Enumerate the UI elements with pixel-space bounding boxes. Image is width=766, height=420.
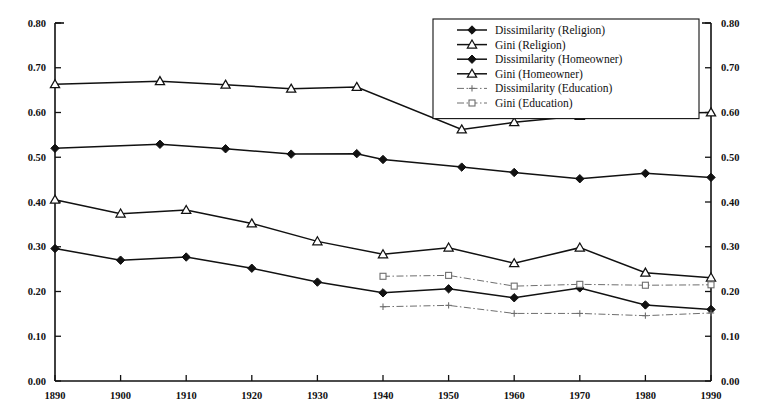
y-tick-label: 0.20 bbox=[28, 286, 46, 297]
marker-filled-diamond bbox=[510, 294, 518, 302]
legend-label: Dissimilarity (Homeowner) bbox=[495, 53, 623, 66]
marker-filled-diamond bbox=[379, 289, 387, 297]
marker-filled-diamond bbox=[248, 264, 256, 272]
x-tick-label: 1980 bbox=[635, 390, 656, 401]
marker-filled-diamond bbox=[51, 144, 59, 152]
marker-filled-diamond bbox=[287, 150, 295, 158]
marker-open-triangle bbox=[444, 243, 453, 251]
x-tick-label: 1900 bbox=[110, 390, 131, 401]
legend-label: Gini (Religion) bbox=[495, 39, 566, 52]
marker-filled-diamond bbox=[221, 145, 229, 153]
y-tick-label-right: 0.00 bbox=[721, 376, 739, 387]
marker-open-triangle bbox=[182, 205, 191, 213]
y-tick-label: 0.00 bbox=[28, 376, 46, 387]
series-0 bbox=[51, 140, 715, 183]
y-tick-label: 0.80 bbox=[28, 18, 46, 29]
y-tick-label-right: 0.60 bbox=[721, 107, 739, 118]
y-tick-label-right: 0.50 bbox=[721, 152, 739, 163]
y-tick-label: 0.60 bbox=[28, 107, 46, 118]
series-line bbox=[383, 275, 711, 286]
marker-small-plus bbox=[380, 304, 386, 310]
marker-filled-diamond bbox=[510, 168, 518, 176]
marker-small-plus bbox=[642, 312, 648, 318]
x-axis-ticks: 1890190019101920193019401950196019701980… bbox=[45, 375, 722, 401]
legend-label: Gini (Homeowner) bbox=[495, 68, 583, 81]
x-tick-label: 1940 bbox=[373, 390, 394, 401]
y-tick-label-right: 0.10 bbox=[721, 331, 739, 342]
marker-small-plus bbox=[445, 302, 451, 308]
x-tick-label: 1910 bbox=[176, 390, 197, 401]
series-line bbox=[383, 305, 711, 315]
y-tick-label-right: 0.80 bbox=[721, 18, 739, 29]
series-4 bbox=[380, 302, 714, 319]
y-tick-label-right: 0.70 bbox=[721, 62, 739, 73]
marker-filled-diamond bbox=[641, 301, 649, 309]
marker-filled-diamond bbox=[641, 169, 649, 177]
y-tick-label-right: 0.30 bbox=[721, 241, 739, 252]
marker-filled-diamond bbox=[707, 173, 715, 181]
marker-filled-diamond bbox=[379, 155, 387, 163]
marker-small-open-square bbox=[511, 283, 517, 289]
legend-label: Dissimilarity (Religion) bbox=[495, 24, 605, 37]
x-tick-label: 1890 bbox=[45, 390, 66, 401]
marker-filled-diamond bbox=[444, 285, 452, 293]
series-3 bbox=[50, 195, 715, 281]
x-tick-label: 1930 bbox=[307, 390, 328, 401]
y-tick-label: 0.40 bbox=[28, 197, 46, 208]
x-tick-label: 1990 bbox=[701, 390, 722, 401]
marker-filled-diamond bbox=[458, 163, 466, 171]
marker-small-open-square bbox=[380, 273, 386, 279]
marker-small-open-square bbox=[469, 100, 475, 106]
legend-label: Gini (Education) bbox=[495, 97, 573, 110]
marker-open-triangle bbox=[575, 243, 584, 251]
marker-small-plus bbox=[511, 310, 517, 316]
x-tick-label: 1950 bbox=[438, 390, 459, 401]
marker-filled-diamond bbox=[576, 175, 584, 183]
line-chart: 0.000.000.100.100.200.200.300.300.400.40… bbox=[0, 0, 766, 420]
x-tick-label: 1970 bbox=[569, 390, 590, 401]
marker-small-open-square bbox=[708, 282, 714, 288]
x-tick-label: 1960 bbox=[504, 390, 525, 401]
y-tick-label: 0.70 bbox=[28, 62, 46, 73]
y-tick-label: 0.30 bbox=[28, 241, 46, 252]
marker-small-open-square bbox=[446, 272, 452, 278]
y-tick-label: 0.10 bbox=[28, 331, 46, 342]
marker-filled-diamond bbox=[353, 149, 361, 157]
legend: Dissimilarity (Religion)Gini (Religion)D… bbox=[433, 19, 699, 119]
marker-filled-diamond bbox=[182, 253, 190, 261]
y-tick-label: 0.50 bbox=[28, 152, 46, 163]
chart-root: 0.000.000.100.100.200.200.300.300.400.40… bbox=[0, 0, 766, 420]
marker-small-open-square bbox=[642, 282, 648, 288]
marker-open-triangle bbox=[50, 195, 59, 203]
series-5 bbox=[380, 272, 714, 289]
marker-small-plus bbox=[577, 310, 583, 316]
marker-filled-diamond bbox=[313, 278, 321, 286]
series-line bbox=[55, 200, 711, 278]
marker-filled-diamond bbox=[51, 244, 59, 252]
legend-label: Dissimilarity (Education) bbox=[495, 82, 612, 95]
y-tick-label-right: 0.20 bbox=[721, 286, 739, 297]
y-tick-label-right: 0.40 bbox=[721, 197, 739, 208]
marker-filled-diamond bbox=[116, 256, 124, 264]
marker-small-open-square bbox=[577, 281, 583, 287]
marker-filled-diamond bbox=[156, 140, 164, 148]
x-tick-label: 1920 bbox=[241, 390, 262, 401]
